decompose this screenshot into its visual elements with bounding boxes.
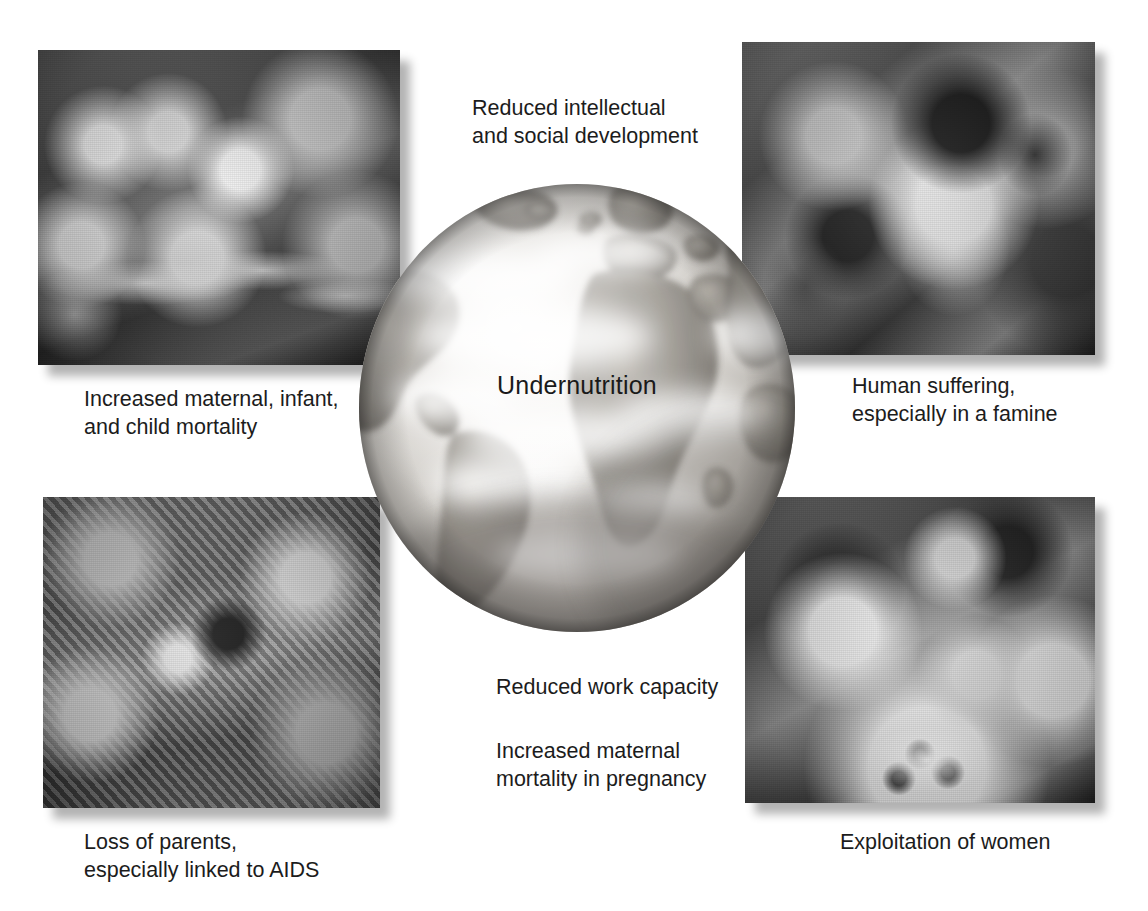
caption-loss-of-parents-especially-linked-to-aids: Loss of parents, especially linked to AI…	[84, 828, 404, 885]
photo-weeping-women	[745, 497, 1095, 803]
photo-crowd-reaching-for-food	[38, 50, 400, 365]
globe-center-label: Undernutrition	[358, 371, 796, 400]
globe-icon	[358, 183, 796, 633]
caption-exploitation-of-women: Exploitation of women	[840, 828, 1140, 856]
caption-reduced-work-capacity: Reduced work capacity	[496, 673, 776, 701]
photo-artwork	[43, 497, 380, 808]
caption-increased-maternal-mortality-in-pregnancy: Increased maternal mortality in pregnanc…	[496, 737, 776, 794]
photo-artwork	[38, 50, 400, 365]
caption-human-suffering-especially-in-a-famine: Human suffering, especially in a famine	[852, 372, 1122, 429]
caption-increased-maternal-infant-and-child-mortality: Increased maternal, infant, and child mo…	[84, 385, 384, 442]
photo-children-in-rubbish-dump	[43, 497, 380, 808]
caption-reduced-intellectual-and-social-development: Reduced intellectual and social developm…	[472, 94, 732, 151]
globe-graphic: Undernutrition	[358, 183, 796, 633]
photo-artwork	[745, 497, 1095, 803]
figure-canvas: Undernutrition Reduced intellectual and …	[0, 0, 1148, 911]
